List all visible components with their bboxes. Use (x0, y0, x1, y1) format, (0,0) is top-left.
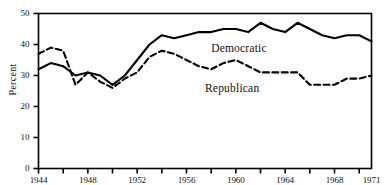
y-tick-label: 50 (10, 8, 30, 18)
series-label-republican: Republican (205, 82, 259, 94)
y-tick-label: 10 (10, 132, 30, 142)
y-tick-label: 0 (10, 163, 30, 173)
chart-canvas (0, 0, 389, 184)
x-tick-label: 1956 (172, 175, 202, 185)
x-tick-label: 1948 (73, 175, 103, 185)
x-tick-label: 1960 (221, 175, 251, 185)
x-tick-label: 1968 (320, 175, 350, 185)
y-tick-label: 30 (10, 70, 30, 80)
x-tick-label: 1964 (270, 175, 300, 185)
x-tick-label: 1944 (24, 175, 54, 185)
x-tick-label: 1952 (122, 175, 152, 185)
series-label-democratic: Democratic (211, 42, 267, 54)
x-tick-label: 1971 (357, 175, 387, 185)
y-tick-label: 40 (10, 39, 30, 49)
y-tick-label: 20 (10, 101, 30, 111)
chart-figure: Percent 01020304050 19441948195219561960… (0, 0, 389, 184)
